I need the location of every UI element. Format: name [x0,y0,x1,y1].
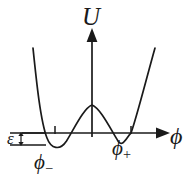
u-axis-arrowhead [87,28,98,42]
u-axis-label: U [82,4,100,29]
epsilon-label: ε [7,130,14,147]
phi-axis-label: ϕ [170,124,182,148]
potential-energy-figure: U ϕ ϕ− ϕ+ ε [0,0,195,187]
phi-minus-base: ϕ [34,150,45,174]
phi-minus-subscript: − [45,160,53,176]
phi-minus-label: ϕ− [34,152,53,175]
phi-plus-subscript: + [123,146,131,162]
phi-axis-arrowhead [156,128,170,139]
phi-plus-label: ϕ+ [112,138,131,161]
phi-plus-base: ϕ [112,136,123,160]
